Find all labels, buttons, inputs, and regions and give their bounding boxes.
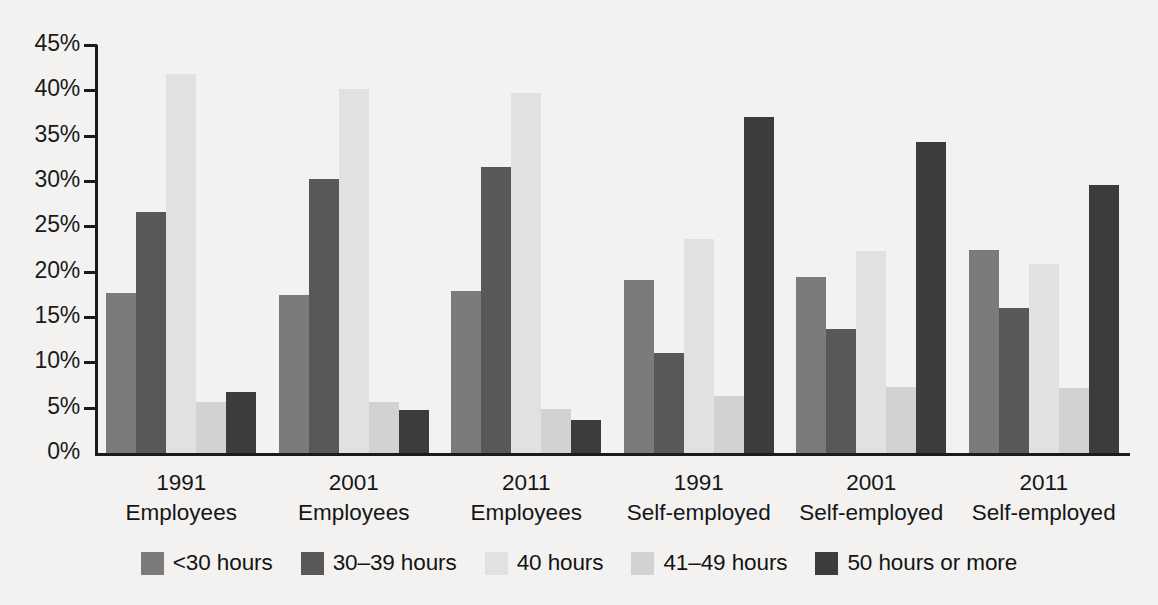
x-axis-label-year: 1991 [613,468,786,498]
bar [571,420,601,453]
y-axis-tick-label: 0% [2,438,80,465]
y-axis-tick-label: 30% [2,166,80,193]
y-axis-tick-label: 5% [2,393,80,420]
bar [106,293,136,453]
y-axis-tick-label-wrap: 45% [0,30,80,58]
bar [166,74,196,453]
bar [744,117,774,453]
y-axis-tick-label: 15% [2,302,80,329]
y-axis-tick-label: 45% [2,30,80,57]
x-axis-line [95,453,1130,456]
y-axis-tick-label-wrap: 5% [0,393,80,421]
bar [481,167,511,453]
legend-item[interactable]: 50 hours or more [815,550,1017,576]
bar [196,402,226,453]
bar [684,239,714,453]
x-axis-label-category: Self-employed [613,498,786,528]
x-axis-label-category: Self-employed [958,498,1131,528]
x-axis-label-category: Employees [268,498,441,528]
x-axis-label-category: Self-employed [785,498,958,528]
bar-group [785,45,958,453]
bar [1059,388,1089,453]
bar [309,179,339,453]
y-axis-tick-label-wrap: 40% [0,75,80,103]
x-axis-label-category: Employees [440,498,613,528]
x-axis-label: 2001Self-employed [785,468,958,528]
y-axis-tick-label: 40% [2,75,80,102]
legend-label: <30 hours [173,550,273,576]
plot-area [95,45,1130,453]
x-axis-label: 2011Employees [440,468,613,528]
bar [226,392,256,453]
legend-item[interactable]: 40 hours [485,550,604,576]
chart-legend: <30 hours30–39 hours40 hours41–49 hours5… [0,550,1158,576]
bar [279,295,309,453]
legend-item[interactable]: 41–49 hours [631,550,787,576]
bar [826,329,856,453]
x-axis-label-year: 2011 [958,468,1131,498]
bar-group [268,45,441,453]
x-axis-label: 1991Employees [95,468,268,528]
bar [654,353,684,453]
bar-group [95,45,268,453]
legend-label: 40 hours [517,550,604,576]
y-axis-tick-label-wrap: 15% [0,302,80,330]
legend-label: 50 hours or more [847,550,1017,576]
bar [1029,264,1059,453]
bar [856,251,886,453]
bar-group [440,45,613,453]
bar-chart: 0%5%10%15%20%25%30%35%40%45% 1991Employe… [0,0,1158,605]
bar-group [613,45,786,453]
y-axis-tick-label: 25% [2,211,80,238]
bar [399,410,429,453]
y-axis-tick-label-wrap: 25% [0,211,80,239]
legend-swatch-icon [301,552,324,575]
legend-label: 41–49 hours [663,550,787,576]
legend-label: 30–39 hours [333,550,457,576]
legend-swatch-icon [815,552,838,575]
legend-swatch-icon [141,552,164,575]
bar [624,280,654,453]
y-axis-tick-label-wrap: 30% [0,166,80,194]
bar [451,291,481,453]
y-axis-tick-label: 20% [2,257,80,284]
bar [511,93,541,453]
x-axis-label-year: 2011 [440,468,613,498]
y-axis-tick-label-wrap: 10% [0,347,80,375]
bar [339,89,369,453]
bar-group [958,45,1131,453]
x-axis-label-year: 1991 [95,468,268,498]
x-axis-label: 2011Self-employed [958,468,1131,528]
bar [1089,185,1119,453]
x-axis-label: 2001Employees [268,468,441,528]
x-axis-label-year: 2001 [268,468,441,498]
y-axis-tick-label: 10% [2,347,80,374]
x-axis-label-year: 2001 [785,468,958,498]
bar [969,250,999,453]
bar [886,387,916,453]
bar [999,308,1029,453]
bar [136,212,166,453]
legend-swatch-icon [631,552,654,575]
x-axis-label-category: Employees [95,498,268,528]
legend-swatch-icon [485,552,508,575]
x-axis-label: 1991Self-employed [613,468,786,528]
y-axis-tick-label-wrap: 20% [0,257,80,285]
bar [369,402,399,453]
legend-item[interactable]: <30 hours [141,550,273,576]
bar [916,142,946,453]
y-axis-tick-label-wrap: 0% [0,438,80,466]
bar [714,396,744,453]
y-axis-tick-label-wrap: 35% [0,121,80,149]
y-axis-tick-label: 35% [2,121,80,148]
legend-item[interactable]: 30–39 hours [301,550,457,576]
bar [796,277,826,453]
bar [541,409,571,453]
